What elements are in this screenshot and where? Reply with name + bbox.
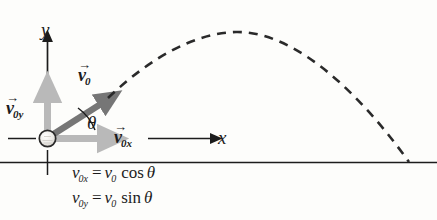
v0-vector-label: →v0 [78, 66, 92, 84]
x-axis-label: x [218, 128, 226, 147]
equation-v0x: v0x=v0cosθ [72, 164, 155, 181]
eq1-operator: = [89, 163, 105, 182]
v0x-vector-accent: → [114, 120, 126, 133]
eq1-function: cos [117, 163, 144, 182]
v0-label-sub: 0 [85, 75, 91, 87]
eq2-variable: θ [141, 188, 152, 207]
theta-angle-label: θ [87, 113, 96, 132]
eq2-operator: = [89, 188, 105, 207]
figure-canvas [0, 0, 437, 220]
eq1-rhs-sub: 0 [111, 173, 116, 184]
equation-v0y: v0y=v0sinθ [72, 189, 152, 206]
v0x-vector-label: →v0x [114, 128, 133, 146]
projectile-ball [39, 130, 55, 146]
v0-vector-accent: → [78, 58, 90, 71]
v0x-label-sub: 0x [121, 137, 132, 149]
eq1-variable: θ [144, 163, 155, 182]
v0y-vector-label: →v0y [6, 99, 24, 117]
eq2-function: sin [117, 188, 141, 207]
eq2-lhs-sub: 0y [79, 198, 88, 209]
v0y-vector-accent: → [6, 91, 18, 104]
eq2-rhs-sub: 0 [111, 198, 116, 209]
v0y-label-sub: 0y [13, 108, 23, 120]
eq1-lhs-sub: 0x [79, 173, 88, 184]
trajectory-curve [108, 32, 409, 162]
projectile-motion-figure: y x →v0 →v0x →v0y θ v0x=v0cosθ v0y=v0sin… [0, 0, 437, 220]
y-axis-label: y [41, 20, 49, 39]
